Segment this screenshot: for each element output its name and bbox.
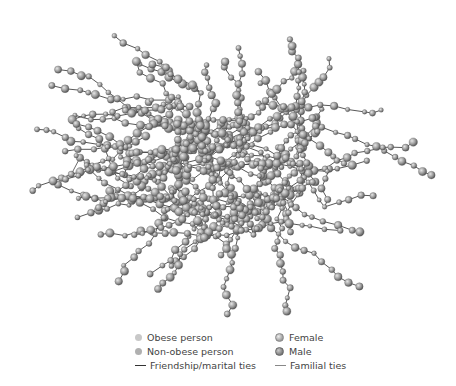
legend-item-female: Female xyxy=(275,332,323,343)
legend-item-nonobese: Non-obese person xyxy=(135,346,234,357)
network-nodes xyxy=(30,33,436,317)
social-network-graph xyxy=(0,0,456,318)
friendship-line-icon xyxy=(135,365,146,366)
legend-item-familial: Familial ties xyxy=(275,360,346,371)
obese-dot-icon xyxy=(135,334,142,341)
nonobese-dot-icon xyxy=(135,348,142,355)
legend-item-male: Male xyxy=(275,346,312,357)
legend-item-friendship: Friendship/marital ties xyxy=(135,360,256,371)
male-sphere-icon xyxy=(275,347,284,356)
female-sphere-icon xyxy=(275,333,284,342)
familial-line-icon xyxy=(275,365,286,366)
legend-item-obese: Obese person xyxy=(135,332,213,343)
